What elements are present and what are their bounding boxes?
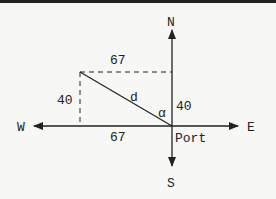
angle-alpha-label: α [158, 106, 166, 121]
top-distance-label: 67 [110, 53, 126, 68]
south-label: S [167, 176, 175, 191]
east-label: E [247, 120, 255, 135]
west-label: W [17, 120, 25, 135]
bottom-distance-label: 67 [110, 130, 126, 145]
left-distance-label: 40 [57, 93, 73, 108]
right-distance-label: 40 [176, 99, 192, 114]
north-label: N [167, 15, 175, 30]
navigation-diagram: N S E W Port 67 67 40 40 d α [0, 0, 276, 199]
hypotenuse-label: d [130, 90, 138, 105]
port-label: Port [175, 131, 206, 146]
